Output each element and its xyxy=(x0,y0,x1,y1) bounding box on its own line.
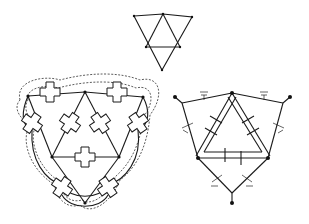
right-mechanism xyxy=(173,91,292,205)
left-layout xyxy=(17,74,159,209)
top-graph xyxy=(133,13,193,71)
cross-modules xyxy=(18,82,152,201)
diagram-canvas xyxy=(0,0,309,224)
